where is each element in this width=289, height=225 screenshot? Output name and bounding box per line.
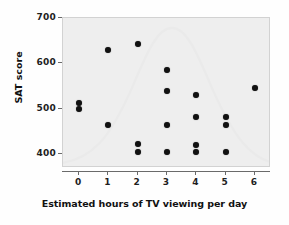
data-point (164, 88, 170, 94)
x-tick-label: 0 (75, 177, 81, 187)
data-point (252, 85, 258, 91)
data-point (223, 114, 229, 120)
data-point (105, 47, 111, 53)
data-point (223, 149, 229, 155)
x-tick-mark (166, 171, 167, 175)
x-tick-label: 2 (134, 177, 140, 187)
x-tick-label: 5 (221, 177, 227, 187)
data-point (193, 92, 199, 98)
x-tick-mark (137, 171, 138, 175)
y-tick-label: 500 (37, 103, 56, 113)
y-tick-mark (58, 153, 62, 154)
data-point (223, 122, 229, 128)
data-point (76, 106, 82, 112)
y-tick-label: 400 (37, 148, 56, 158)
x-tick-label: 6 (251, 177, 257, 187)
data-point (135, 41, 141, 47)
x-tick-label: 4 (192, 177, 198, 187)
data-point (164, 67, 170, 73)
data-point (105, 122, 111, 128)
x-tick-mark (107, 171, 108, 175)
y-tick-mark (58, 108, 62, 109)
y-tick-mark (58, 62, 62, 63)
y-tick-label: 700 (37, 12, 56, 22)
data-point (193, 142, 199, 148)
x-tick-label: 1 (104, 177, 110, 187)
x-tick-mark (225, 171, 226, 175)
y-axis-title: SAT score (13, 28, 24, 128)
scatter-plot-figure: 400500600700 0123456 Estimated hours of … (0, 0, 289, 225)
x-tick-mark (254, 171, 255, 175)
x-axis-title: Estimated hours of TV viewing per day (0, 198, 289, 209)
y-tick-label: 600 (37, 57, 56, 67)
plot-area (62, 17, 270, 167)
data-point (164, 122, 170, 128)
x-tick-label: 3 (163, 177, 169, 187)
x-tick-mark (195, 171, 196, 175)
data-point (193, 114, 199, 120)
data-point (164, 149, 170, 155)
data-point (135, 141, 141, 147)
y-tick-mark (58, 17, 62, 18)
data-point (135, 149, 141, 155)
data-point (193, 149, 199, 155)
x-axis: 0123456 (0, 171, 289, 201)
x-tick-mark (78, 171, 79, 175)
